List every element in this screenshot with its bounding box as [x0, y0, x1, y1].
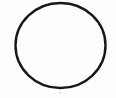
ink-speck	[59, 92, 61, 94]
drawing-canvas	[0, 0, 116, 98]
paper-background	[0, 0, 116, 98]
scanned-image-figure: A single hand-drawn black circle outline…	[0, 0, 116, 98]
